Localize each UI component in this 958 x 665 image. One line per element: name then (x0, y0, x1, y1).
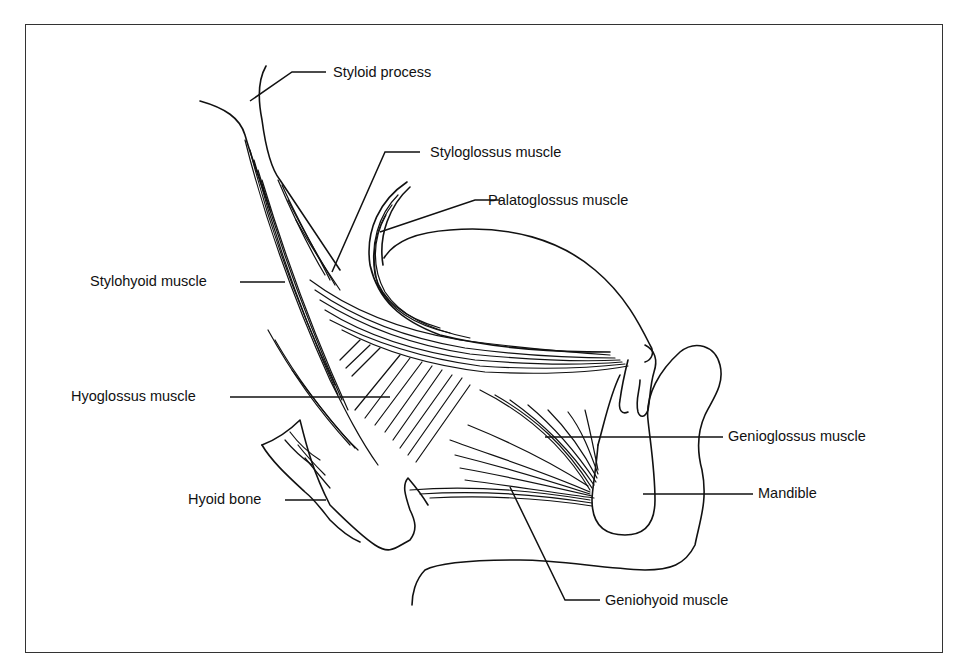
label-styloglossus-muscle: Styloglossus muscle (430, 145, 561, 160)
styloid-process-shape (200, 66, 340, 270)
label-geniohyoid-muscle: Geniohyoid muscle (605, 593, 728, 608)
geniohyoid-fibers (410, 488, 592, 506)
label-hyoid-bone: Hyoid bone (188, 492, 261, 507)
label-palatoglossus-muscle: Palatoglossus muscle (488, 193, 628, 208)
label-hyoglossus-muscle: Hyoglossus muscle (71, 389, 196, 404)
label-styloid-process: Styloid process (333, 65, 431, 80)
label-stylohyoid-muscle: Stylohyoid muscle (90, 274, 207, 289)
hyoglossus-fibers (340, 340, 470, 462)
tongue-muscles-illustration (0, 0, 958, 665)
stylohyoid-fibers (245, 140, 378, 465)
genioglossus-fibers (450, 390, 598, 498)
label-mandible: Mandible (758, 486, 817, 501)
styloglossus-fibers (310, 280, 628, 373)
tongue-dorsum-outline (384, 229, 652, 362)
label-genioglossus-muscle: Genioglossus muscle (728, 429, 866, 444)
mandible-outline (412, 346, 721, 605)
